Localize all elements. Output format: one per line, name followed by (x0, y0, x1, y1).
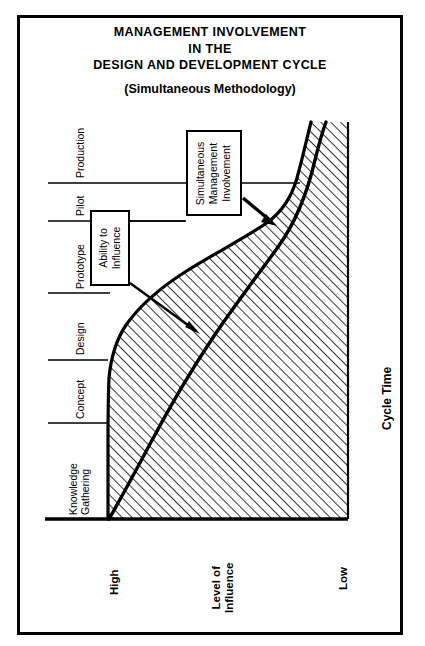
callout-smi-line1: Simultaneous (195, 141, 207, 205)
y-tick-label-knowledge-line1: Knowledge (67, 463, 79, 515)
chart-canvas (0, 0, 425, 646)
simultaneous-involvement-arrow (243, 198, 277, 226)
x-axis-label-low: Low (337, 567, 350, 590)
callout-smi-line2: Management (208, 142, 220, 203)
x-axis-label-high: High (108, 569, 121, 595)
y-tick-label-knowledge-gathering: Knowledge Gathering (68, 463, 91, 515)
callout-smi-text: Simultaneous Management Involvement (195, 141, 234, 205)
x-axis-label-line1: Level of (210, 566, 222, 609)
callout-ati-text: Ability to Influence (97, 227, 123, 270)
x-axis-label-level-of-influence: Level of Influence (210, 563, 236, 613)
y-tick-label-prototype: Prototype (75, 244, 87, 289)
y-tick-label-knowledge-line2: Gathering (79, 469, 91, 515)
y-tick-label-concept: Concept (75, 380, 87, 419)
x-axis-label-line2: Influence (223, 563, 235, 613)
callout-smi-line3: Involvement (221, 145, 233, 202)
callout-simultaneous-management-involvement: Simultaneous Management Involvement (186, 130, 242, 216)
callout-ati-line1: Ability to (97, 228, 109, 268)
diagram-page: MANAGEMENT INVOLVEMENT IN THE DESIGN AND… (0, 0, 425, 646)
y-tick-label-design: Design (75, 322, 87, 355)
y-tick-label-pilot: Pilot (75, 196, 87, 216)
y-tick-label-production: Production (75, 128, 87, 178)
callout-ability-to-influence: Ability to Influence (90, 210, 130, 286)
y-axis-label-cycle-time: Cycle Time (380, 367, 394, 430)
callout-ati-line2: Influence (110, 227, 122, 270)
